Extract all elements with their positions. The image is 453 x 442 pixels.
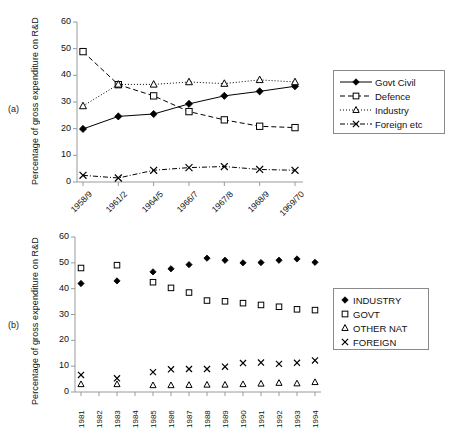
x-tick-label: 1991 — [257, 398, 266, 428]
legend-key — [339, 294, 351, 306]
x-tick-label: 1990 — [239, 398, 248, 428]
x-tick-label: 1994 — [311, 398, 320, 428]
legend-item-foreign[interactable]: FOREIGN — [339, 335, 423, 349]
legend-marker-filled-diamond — [339, 294, 351, 306]
y-tick-label: 20 — [37, 334, 69, 344]
x-tick-label: 1989 — [221, 398, 230, 428]
x-tick-label: 1987 — [185, 398, 194, 428]
y-tick-label: 40 — [37, 283, 69, 293]
legend-key — [339, 118, 373, 130]
legend-marker-open-triangle — [339, 104, 373, 116]
legend-key — [339, 90, 373, 102]
y-tick-label: 0 — [37, 386, 69, 396]
x-tick-label: 1988 — [203, 398, 212, 428]
legend-item-govt[interactable]: GOVT — [339, 307, 423, 321]
y-tick-label: 20 — [39, 123, 71, 133]
x-tick-label: 1981 — [77, 398, 86, 428]
y-tick-label: 40 — [39, 69, 71, 79]
y-tick-label: 50 — [39, 43, 71, 53]
legend-marker-filled-diamond — [339, 76, 373, 88]
figure-root: (a) Percentage of gross expenditure on R… — [0, 0, 453, 442]
y-tick-label: 50 — [37, 257, 69, 267]
y-tick-label: 30 — [39, 96, 71, 106]
legend-item-label: GOVT — [351, 309, 380, 320]
panel-b-plot-area — [73, 237, 321, 392]
legend-marker-open-triangle — [339, 322, 351, 334]
panel-b-tag: (b) — [8, 320, 19, 330]
x-tick-label: 1985 — [149, 398, 158, 428]
legend-key — [339, 76, 373, 88]
legend-key — [339, 322, 351, 334]
y-tick-label: 10 — [37, 360, 69, 370]
chart-panel-a: (a) Percentage of gross expenditure on R… — [0, 0, 453, 230]
legend-marker-cross — [339, 118, 373, 130]
legend-marker-open-square — [339, 308, 351, 320]
legend-key — [339, 336, 351, 348]
x-tick-label: 1992 — [275, 398, 284, 428]
legend-marker-open-square — [339, 90, 373, 102]
y-tick-label: 30 — [37, 309, 69, 319]
legend-item-industry[interactable]: Industry — [339, 103, 439, 117]
legend-item-label: FOREIGN — [351, 337, 396, 348]
panel-b-legend: INDUSTRYGOVTOTHER NATFOREIGN — [333, 288, 429, 350]
legend-item-label: Defence — [373, 91, 410, 102]
legend-item-label: INDUSTRY — [351, 295, 401, 306]
legend-marker-cross — [339, 336, 351, 348]
y-tick-label: 10 — [39, 149, 71, 159]
legend-item-defence[interactable]: Defence — [339, 89, 439, 103]
y-tick-label: 60 — [39, 16, 71, 26]
legend-item-label: Foreign etc — [373, 119, 423, 130]
y-tick-label: 0 — [39, 176, 71, 186]
panel-a-tag: (a) — [8, 104, 19, 114]
legend-item-govt-civil[interactable]: Govt Civil — [339, 75, 439, 89]
legend-item-label: OTHER NAT — [351, 323, 407, 334]
chart-panel-b: (b) Percentage of gross expenditure on R… — [0, 225, 453, 442]
panel-a-svg — [73, 22, 303, 182]
legend-item-label: Govt Civil — [373, 77, 416, 88]
legend-item-foreign-etc[interactable]: Foreign etc — [339, 117, 439, 131]
legend-key — [339, 308, 351, 320]
legend-key — [339, 104, 373, 116]
y-tick-label: 60 — [37, 231, 69, 241]
panel-a-legend: Govt CivilDefenceIndustryForeign etc — [333, 70, 445, 134]
panel-a-plot-area — [73, 22, 303, 182]
legend-item-label: Industry — [373, 105, 409, 116]
x-tick-label: 1986 — [167, 398, 176, 428]
x-tick-label: 1983 — [113, 398, 122, 428]
panel-b-svg — [73, 237, 321, 392]
legend-item-other-nat[interactable]: OTHER NAT — [339, 321, 423, 335]
legend-item-industry[interactable]: INDUSTRY — [339, 293, 423, 307]
x-tick-label: 1982 — [95, 398, 104, 428]
x-tick-label: 1984 — [131, 398, 140, 428]
x-tick-label: 1993 — [293, 398, 302, 428]
